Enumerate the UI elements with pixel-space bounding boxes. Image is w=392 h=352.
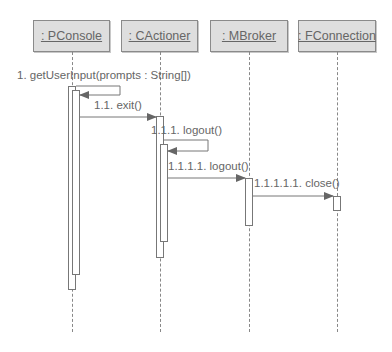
- message-label-exit: 1.1. exit(): [94, 99, 142, 111]
- message-label-close: 1.1.1.1.1. close(): [254, 177, 340, 189]
- arrow-self-getuserinput: [76, 86, 120, 95]
- message-label-getuserinput: 1. getUserInput(prompts : String[]): [17, 69, 191, 81]
- message-label-logout: 1.1.1.1. logout(): [168, 160, 249, 172]
- message-label-logout-self: 1.1.1. logout(): [151, 124, 222, 136]
- arrow-self-logout: [164, 140, 208, 151]
- message-arrows: [0, 0, 392, 352]
